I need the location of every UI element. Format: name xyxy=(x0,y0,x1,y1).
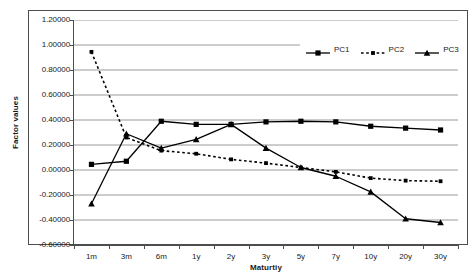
data-point-marker xyxy=(298,119,303,124)
data-point-marker xyxy=(123,130,130,136)
legend-swatch-pc2-icon xyxy=(360,44,386,54)
data-point-marker xyxy=(404,179,408,183)
y-axis-tick-mark xyxy=(70,70,74,71)
y-axis-tick-mark xyxy=(70,95,74,96)
data-point-marker xyxy=(368,124,373,129)
x-axis-tick-mark xyxy=(318,245,319,249)
x-axis-title: Maturtiy xyxy=(74,263,458,272)
series-pc3 xyxy=(88,121,444,225)
series-line xyxy=(91,121,440,164)
y-axis-tick-mark xyxy=(70,20,74,21)
y-axis-tick-label: -0.20000 xyxy=(24,191,70,199)
x-axis-tick-mark xyxy=(179,245,180,249)
y-axis-tick-label: 0.40000 xyxy=(24,116,70,124)
y-axis-tick-label: 1.20000 xyxy=(24,16,70,24)
data-point-marker xyxy=(367,189,374,195)
x-axis-tick-mark xyxy=(423,245,424,249)
data-point-marker xyxy=(194,122,199,127)
x-axis-tick-mark xyxy=(74,245,75,249)
y-axis-tick-label: 0.20000 xyxy=(24,141,70,149)
x-axis-line xyxy=(73,245,458,246)
legend-item-pc3[interactable]: PC3 xyxy=(409,44,464,54)
data-point-marker xyxy=(193,136,200,142)
y-axis-tick-mark xyxy=(70,170,74,171)
y-axis-tick-mark xyxy=(70,220,74,221)
legend-item-pc2[interactable]: PC2 xyxy=(355,44,410,54)
data-point-marker xyxy=(194,152,198,156)
y-axis-title: Factor values xyxy=(11,83,20,163)
x-axis-tick-mark xyxy=(109,245,110,249)
y-axis-tick-label: 0.60000 xyxy=(24,91,70,99)
x-axis-tick-mark xyxy=(283,245,284,249)
data-point-marker xyxy=(159,119,164,124)
data-point-marker xyxy=(315,50,320,55)
y-axis-tick-mark xyxy=(70,45,74,46)
y-axis-tick-labels: 1.200001.000000.800000.600000.400000.200… xyxy=(20,0,70,280)
data-point-marker xyxy=(403,126,408,131)
y-axis-tick-label: -0.60000 xyxy=(24,241,70,249)
data-point-marker xyxy=(333,119,338,124)
series-line xyxy=(91,124,440,222)
y-axis-tick-label: 1.00000 xyxy=(24,41,70,49)
x-axis-tick-mark xyxy=(144,245,145,249)
legend-swatch-pc1-icon xyxy=(305,44,331,54)
data-point-marker xyxy=(369,176,373,180)
data-point-marker xyxy=(90,50,94,54)
y-axis-tick-label: 0.00000 xyxy=(24,166,70,174)
x-axis-tick-mark xyxy=(388,245,389,249)
data-point-marker xyxy=(439,179,443,183)
x-axis-tick-mark xyxy=(353,245,354,249)
data-point-marker xyxy=(263,119,268,124)
data-point-marker xyxy=(89,162,94,167)
y-axis-tick-label: -0.40000 xyxy=(24,216,70,224)
factor-values-line-chart: Factor values 1.200001.000000.800000.600… xyxy=(0,0,475,280)
data-point-marker xyxy=(438,127,443,132)
x-axis-tick-mark xyxy=(214,245,215,249)
legend-item-pc1[interactable]: PC1 xyxy=(300,44,355,54)
data-point-marker xyxy=(124,159,129,164)
y-axis-tick-mark xyxy=(70,145,74,146)
x-axis-tick-mark xyxy=(249,245,250,249)
series-pc1 xyxy=(89,119,443,167)
legend-swatch-pc3-icon xyxy=(414,44,440,54)
data-point-marker xyxy=(264,161,268,165)
chart-legend: PC1PC2PC3 xyxy=(300,40,464,58)
y-axis-tick-mark xyxy=(70,120,74,121)
x-axis-tick-mark xyxy=(458,245,459,249)
data-point-marker xyxy=(371,51,375,55)
data-point-marker xyxy=(88,200,95,206)
legend-label: PC1 xyxy=(334,45,350,54)
y-axis-tick-label: 0.80000 xyxy=(24,66,70,74)
data-point-marker xyxy=(229,157,233,161)
data-point-marker xyxy=(263,145,270,151)
legend-label: PC3 xyxy=(443,45,459,54)
y-axis-tick-mark xyxy=(70,195,74,196)
legend-label: PC2 xyxy=(389,45,405,54)
x-axis-tick-label: 30y xyxy=(421,252,461,261)
